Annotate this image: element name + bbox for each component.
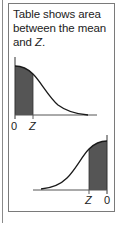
lower-shaded-area xyxy=(89,141,107,190)
lower-label-z: Z xyxy=(84,194,93,206)
upper-shaded-area xyxy=(15,66,33,115)
lower-label-zero: 0 xyxy=(104,194,110,206)
upper-normal-curve-diagram: 0 Z xyxy=(11,57,97,132)
upper-label-z: Z xyxy=(28,120,37,132)
normal-curve-diagrams: 0 Z Z 0 xyxy=(0,0,119,225)
upper-label-zero: 0 xyxy=(11,120,17,132)
lower-normal-curve-diagram: Z 0 xyxy=(33,135,110,206)
